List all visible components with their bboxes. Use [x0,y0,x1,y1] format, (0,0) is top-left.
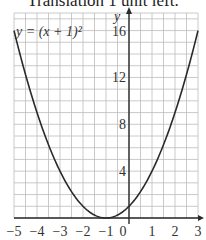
svg-text:3: 3 [195,224,202,239]
parabola-chart: −5−4−3−2−10123481216 y = (x + 1)² y [0,0,206,240]
svg-text:1: 1 [149,224,156,239]
svg-text:12: 12 [112,70,126,85]
axes [14,7,204,224]
svg-text:4: 4 [119,164,126,179]
equation-label: y = (x + 1)² [14,24,83,40]
svg-text:−3: −3 [53,224,68,239]
svg-text:8: 8 [119,117,126,132]
svg-text:−4: −4 [30,224,45,239]
svg-text:0: 0 [120,224,127,239]
grid [14,13,198,218]
svg-text:2: 2 [172,224,179,239]
svg-text:−2: −2 [76,224,91,239]
svg-text:−1: −1 [99,224,114,239]
y-axis-label: y [112,9,121,24]
svg-text:−5: −5 [7,224,22,239]
svg-text:16: 16 [112,24,126,39]
